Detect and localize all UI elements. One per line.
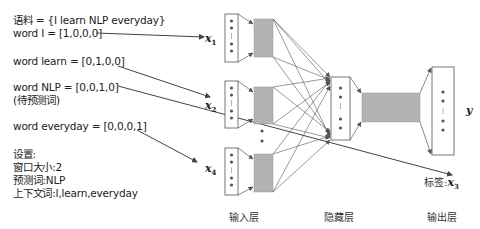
hidden-layer-label: 隐藏层 [324,209,354,224]
var-x2: x2 [205,99,216,114]
hidden-connections [273,19,330,192]
var-y: y [466,104,472,117]
var-x4: x4 [205,162,216,177]
output-layer-label: 输出层 [427,209,457,224]
input-layer-label: 输入层 [229,209,259,224]
var-x1: x1 [205,32,216,47]
projection-boxes [254,19,273,192]
cbow-network-diagram [0,0,480,229]
label-target: 标签:x3 [424,174,459,191]
output-projection-box [362,93,420,122]
